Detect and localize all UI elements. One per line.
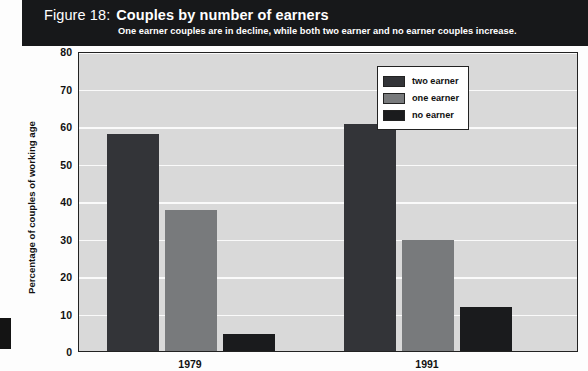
legend-label-no-earner: no earner — [412, 110, 454, 120]
gridline — [79, 127, 577, 129]
y-tick-label: 70 — [60, 84, 72, 96]
bar-two-earner-1991 — [344, 124, 396, 351]
legend-swatch-no-earner — [383, 110, 405, 121]
y-tick-label: 10 — [60, 309, 72, 321]
legend-label-one-earner: one earner — [412, 93, 459, 103]
figure-root: Figure 18:Couples by number of earners O… — [0, 0, 588, 371]
chart-legend: two earner one earner no earner — [377, 66, 469, 130]
figure-title: Couples by number of earners — [116, 7, 328, 23]
y-tick-label: 40 — [60, 196, 72, 208]
legend-item-two-earner: two earner — [383, 73, 462, 89]
plot-inner — [79, 53, 577, 351]
legend-label-two-earner: two earner — [412, 76, 458, 86]
figure-header: Figure 18:Couples by number of earners O… — [22, 0, 588, 46]
y-axis-ticks: 01020304050607080 — [0, 52, 78, 352]
gridline — [79, 90, 577, 92]
bar-no-earner-1991 — [460, 307, 512, 351]
gridline — [79, 53, 577, 54]
y-tick-label: 60 — [60, 121, 72, 133]
y-tick-label: 20 — [60, 271, 72, 283]
bar-one-earner-1979 — [165, 210, 217, 351]
legend-item-no-earner: no earner — [383, 107, 462, 123]
y-tick-label: 50 — [60, 159, 72, 171]
plot-area — [78, 52, 578, 352]
y-tick-label: 80 — [60, 46, 72, 58]
figure-number-label: Figure 18: — [44, 7, 110, 23]
legend-swatch-two-earner — [383, 76, 405, 87]
chart-area: Percentage of couples of working age 010… — [0, 46, 588, 371]
bar-two-earner-1979 — [107, 134, 159, 352]
bar-one-earner-1991 — [402, 240, 454, 351]
bar-no-earner-1979 — [223, 334, 275, 351]
x-tick-label: 1979 — [178, 358, 201, 370]
legend-swatch-one-earner — [383, 93, 405, 104]
y-tick-label: 0 — [66, 346, 72, 358]
x-tick-label: 1991 — [415, 358, 438, 370]
legend-item-one-earner: one earner — [383, 90, 462, 106]
figure-subtitle: One earner couples are in decline, while… — [118, 26, 517, 36]
y-tick-label: 30 — [60, 234, 72, 246]
figure-header-title-row: Figure 18:Couples by number of earners — [44, 6, 329, 24]
